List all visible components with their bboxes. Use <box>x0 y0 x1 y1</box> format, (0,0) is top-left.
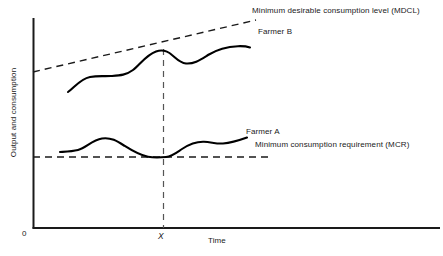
mdcl-dashed-line <box>33 20 256 72</box>
chart-plot-area <box>0 0 443 256</box>
chart-figure: Minimum desirable consumption level (MDC… <box>0 0 443 256</box>
y-axis-title: Output and consumption <box>9 53 18 173</box>
axis-origin-label: 0 <box>22 229 27 238</box>
farmer-b-series-label: Farmer B <box>258 27 292 36</box>
farmer-a-series-label: Farmer A <box>246 127 280 136</box>
x-axis-title: Time <box>208 236 226 245</box>
x-axis-marker-label: X <box>158 231 164 241</box>
farmer-a-curve <box>60 138 247 158</box>
mcr-annotation-label: Minimum consumption requirement (MCR) <box>255 140 409 149</box>
farmer-b-curve <box>68 46 250 92</box>
mdcl-annotation-label: Minimum desirable consumption level (MDC… <box>252 6 420 15</box>
